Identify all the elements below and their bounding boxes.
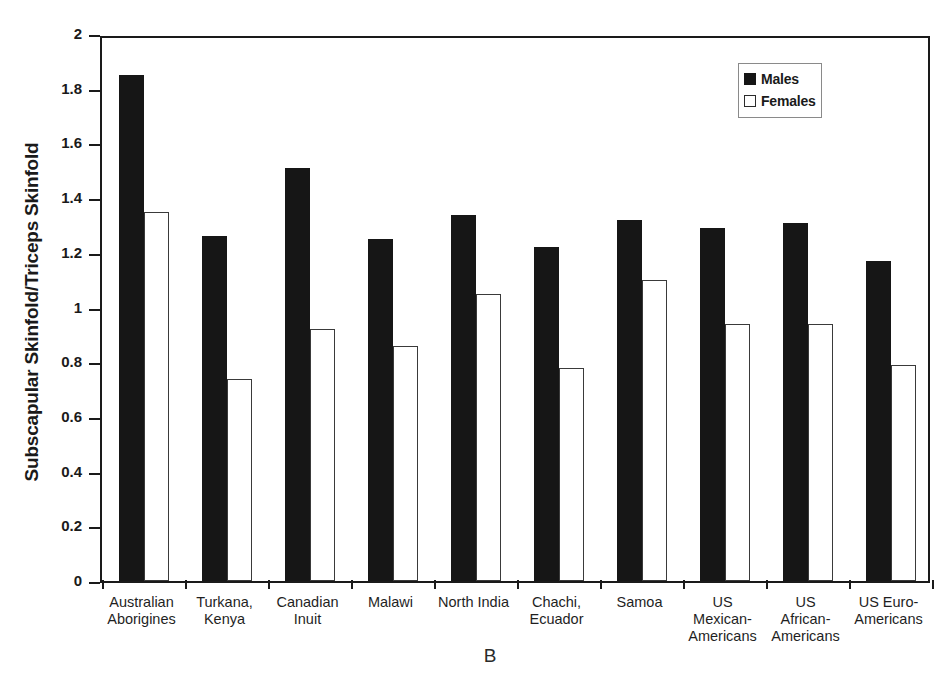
legend-item-males: Males [744,68,816,90]
legend-label-females: Females [761,93,816,109]
bar-male [700,228,725,581]
x-axis-tick-mark [683,580,685,589]
x-axis-tick-mark [351,580,353,589]
x-axis-label-line: Ecuador [506,611,607,628]
y-axis-tick-mark [89,35,100,37]
y-axis-title: Subscapular Skinfold/Triceps Skinfold [21,77,43,547]
x-axis-label-line: Inuit [257,611,358,628]
y-axis-tick-label: 2 [74,25,82,42]
x-axis-label: US Euro-Americans [838,594,938,628]
y-axis-tick-mark [89,90,100,92]
x-axis-tick-mark [517,580,519,589]
y-axis-tick-label: 0.6 [61,408,82,425]
y-axis-tick-label: 0.8 [61,353,82,370]
legend-swatch-females-icon [744,95,756,107]
bar-female [393,346,418,581]
bar-male [119,75,144,581]
bar-male [451,215,476,581]
y-axis-tick-mark [89,363,100,365]
legend: Males Females [738,63,822,118]
bar-male [534,247,559,581]
legend-swatch-males-icon [744,73,756,85]
x-axis-tick-mark [268,580,270,589]
legend-label-males: Males [761,71,799,87]
plot-area [100,36,930,583]
chart-figure: Subscapular Skinfold/Triceps Skinfold 00… [0,0,938,683]
bar-male [285,168,310,581]
panel-caption: B [470,645,510,667]
legend-item-females: Females [744,90,816,112]
bar-female [227,379,252,581]
bar-female [476,294,501,581]
y-axis-tick-label: 0 [74,572,82,589]
x-axis-tick-mark [766,580,768,589]
y-axis-tick-label: 1.4 [61,189,82,206]
y-axis-tick-mark [89,199,100,201]
bar-male [202,236,227,581]
y-axis-tick-mark [89,309,100,311]
y-axis-tick-mark [89,527,100,529]
bar-female [891,365,916,581]
x-axis-labels: AustralianAboriginesTurkana,KenyaCanadia… [100,594,930,654]
y-axis-tick-label: 1.2 [61,244,82,261]
bar-male [783,223,808,581]
y-axis-tick-label: 0.2 [61,517,82,534]
x-axis-label-line: Americans [755,628,856,645]
y-axis-tick-label: 1.6 [61,134,82,151]
y-axis-tick-label: 0.4 [61,463,82,480]
x-axis-tick-mark [102,580,104,589]
y-axis-tick-label: 1 [74,299,82,316]
bar-female [725,324,750,581]
bar-female [808,324,833,581]
x-axis-tick-mark [932,580,934,589]
bar-female [559,368,584,581]
x-axis-label-line: US Euro- [838,594,938,611]
y-axis-tick-mark [89,582,100,584]
x-axis-tick-mark [849,580,851,589]
bars-layer [102,38,928,581]
y-axis-tick-mark [89,144,100,146]
bar-male [866,261,891,581]
x-axis-tick-mark [600,580,602,589]
bar-male [617,220,642,581]
x-axis-tick-mark [185,580,187,589]
y-axis-tick-mark [89,254,100,256]
y-axis-tick-mark [89,473,100,475]
bar-female [144,212,169,581]
bar-male [368,239,393,581]
bar-female [642,280,667,581]
y-axis-tick-label: 1.8 [61,80,82,97]
bar-female [310,329,335,581]
y-axis-tick-mark [89,418,100,420]
x-axis-label-line: Americans [838,611,938,628]
x-axis-tick-mark [434,580,436,589]
